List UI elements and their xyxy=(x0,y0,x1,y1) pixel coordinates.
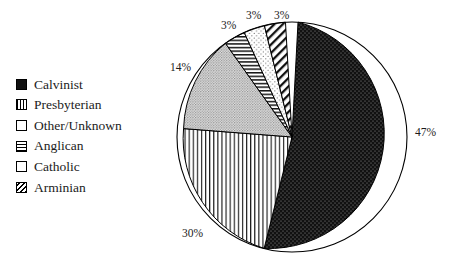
value-label-catholic: 3% xyxy=(246,10,261,22)
value-label-presbyterian: 30% xyxy=(182,228,203,240)
legend-swatch-light-dots-icon xyxy=(16,161,27,172)
chart-legend: Calvinist Presbyterian Other/Unknown Ang… xyxy=(16,74,156,198)
pie-slices xyxy=(177,22,407,252)
legend-item-calvinist[interactable]: Calvinist xyxy=(16,74,156,95)
legend-label-other-unknown: Other/Unknown xyxy=(34,119,122,133)
legend-label-calvinist: Calvinist xyxy=(34,78,83,92)
value-label-arminian: 3% xyxy=(274,10,289,22)
legend-swatch-horizontal-lines-icon xyxy=(16,141,27,152)
legend-item-anglican[interactable]: Anglican xyxy=(16,136,156,157)
value-label-calvinist: 47% xyxy=(415,127,436,139)
legend-item-catholic[interactable]: Catholic xyxy=(16,156,156,177)
legend-swatch-solid-black-dotted-icon xyxy=(16,79,27,90)
legend-item-presbyterian[interactable]: Presbyterian xyxy=(16,95,156,116)
value-label-other-unknown: 14% xyxy=(170,62,191,74)
legend-item-other-unknown[interactable]: Other/Unknown xyxy=(16,115,156,136)
value-label-anglican: 3% xyxy=(221,20,236,32)
pie-chart-figure: 47% 30% 14% 3% 3% 3% Calvinist Presbyter… xyxy=(0,0,449,263)
legend-swatch-diagonal-hatch-icon xyxy=(16,182,27,193)
legend-label-catholic: Catholic xyxy=(34,160,80,174)
legend-label-presbyterian: Presbyterian xyxy=(34,98,101,112)
legend-label-anglican: Anglican xyxy=(34,139,84,153)
legend-swatch-gray-stipple-icon xyxy=(16,120,27,131)
legend-item-arminian[interactable]: Arminian xyxy=(16,177,156,198)
legend-swatch-vertical-lines-icon xyxy=(16,99,27,110)
legend-label-arminian: Arminian xyxy=(34,181,86,195)
